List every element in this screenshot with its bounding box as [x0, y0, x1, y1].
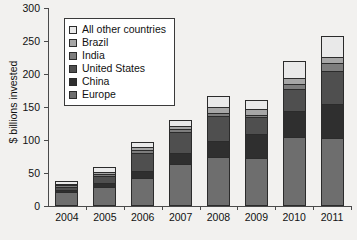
bar-2008[interactable] — [207, 96, 230, 206]
x-tick-4 — [237, 206, 238, 210]
y-tick-100 — [44, 140, 48, 141]
bar-segment-europe — [94, 188, 115, 205]
x-tick-6 — [313, 206, 314, 210]
bar-segment-all-other-countries — [322, 37, 343, 58]
x-tick-label-2008: 2008 — [198, 211, 238, 223]
x-tick-label-2005: 2005 — [85, 211, 125, 223]
chart-container: 050100150200250300 $ billions invested 2… — [0, 0, 357, 240]
y-tick-label-200: 200 — [0, 69, 40, 79]
bar-2009[interactable] — [245, 100, 268, 206]
chart-legend: All other countriesBrazilIndiaUnited Sta… — [64, 18, 175, 106]
bar-segment-europe — [208, 158, 229, 205]
bar-segment-europe — [284, 138, 305, 205]
legend-label: All other countries — [82, 24, 166, 35]
bar-segment-europe — [132, 179, 153, 205]
bar-segment-europe — [322, 139, 343, 205]
legend-label: United States — [82, 63, 145, 74]
bar-2006[interactable] — [131, 142, 154, 206]
legend-swatch-icon — [69, 91, 77, 99]
x-tick-3 — [200, 206, 201, 210]
y-tick-250 — [44, 41, 48, 42]
bar-segment-china — [208, 142, 229, 158]
legend-label: India — [82, 50, 105, 61]
legend-label: Europe — [82, 89, 116, 100]
x-tick-label-2010: 2010 — [274, 211, 314, 223]
legend-item-china[interactable]: China — [69, 75, 166, 88]
bar-segment-united-states — [208, 117, 229, 142]
bar-segment-all-other-countries — [246, 101, 267, 110]
x-tick-5 — [275, 206, 276, 210]
bar-segment-china — [322, 105, 343, 139]
bar-segment-europe — [56, 193, 77, 205]
legend-swatch-icon — [69, 26, 77, 34]
x-tick-label-2009: 2009 — [236, 211, 276, 223]
y-tick-label-250: 250 — [0, 36, 40, 46]
y-tick-0 — [44, 206, 48, 207]
legend-item-europe[interactable]: Europe — [69, 88, 166, 101]
legend-swatch-icon — [69, 65, 77, 73]
y-tick-200 — [44, 74, 48, 75]
y-tick-label-0: 0 — [0, 201, 40, 211]
bar-segment-united-states — [170, 133, 191, 154]
bar-segment-china — [284, 112, 305, 138]
y-tick-150 — [44, 107, 48, 108]
x-tick-label-2011: 2011 — [312, 211, 352, 223]
bar-segment-united-states — [284, 90, 305, 112]
bar-segment-all-other-countries — [284, 62, 305, 79]
legend-swatch-icon — [69, 52, 77, 60]
legend-item-brazil[interactable]: Brazil — [69, 36, 166, 49]
x-tick-1 — [124, 206, 125, 210]
bar-2005[interactable] — [93, 167, 116, 206]
legend-label: Brazil — [82, 37, 108, 48]
bar-segment-united-states — [246, 118, 267, 135]
legend-item-all-other-countries[interactable]: All other countries — [69, 23, 166, 36]
bar-segment-china — [246, 135, 267, 159]
bar-segment-china — [170, 154, 191, 165]
bar-2010[interactable] — [283, 61, 306, 206]
bar-segment-china — [132, 172, 153, 179]
y-tick-50 — [44, 173, 48, 174]
bar-segment-united-states — [132, 154, 153, 173]
x-tick-7 — [351, 206, 352, 210]
legend-swatch-icon — [69, 78, 77, 86]
y-tick-label-50: 50 — [0, 168, 40, 178]
bar-segment-united-states — [322, 72, 343, 105]
bar-2007[interactable] — [169, 120, 192, 206]
bar-segment-all-other-countries — [208, 97, 229, 108]
bar-2004[interactable] — [55, 181, 78, 206]
y-tick-label-300: 300 — [0, 3, 40, 13]
legend-label: China — [82, 76, 109, 87]
bar-2011[interactable] — [321, 36, 344, 206]
legend-item-india[interactable]: India — [69, 49, 166, 62]
legend-item-united-states[interactable]: United States — [69, 62, 166, 75]
bar-segment-europe — [170, 165, 191, 205]
bar-segment-india — [322, 64, 343, 72]
y-axis-title: $ billions invested — [7, 27, 19, 177]
bar-segment-europe — [246, 159, 267, 205]
legend-swatch-icon — [69, 39, 77, 47]
x-tick-2 — [162, 206, 163, 210]
x-tick-label-2004: 2004 — [47, 211, 87, 223]
x-tick-label-2007: 2007 — [161, 211, 201, 223]
x-tick-label-2006: 2006 — [123, 211, 163, 223]
x-tick-0 — [86, 206, 87, 210]
y-tick-label-100: 100 — [0, 135, 40, 145]
y-tick-label-150: 150 — [0, 102, 40, 112]
bar-segment-united-states — [94, 177, 115, 185]
y-tick-300 — [44, 8, 48, 9]
